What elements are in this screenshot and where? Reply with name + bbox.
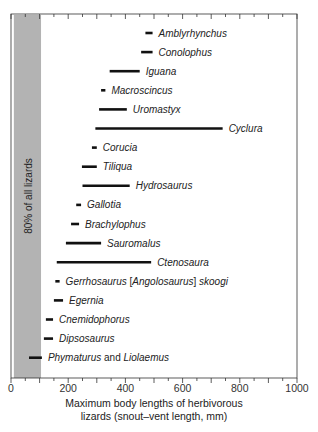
- taxon-label: Cyclura: [229, 123, 263, 134]
- taxon-label: Cnemidophorus: [59, 314, 130, 325]
- x-tick-label: 600: [174, 382, 192, 394]
- shaded-region-label: 80% of all lizards: [23, 158, 34, 234]
- taxon-label: Ctenosaura: [157, 257, 209, 268]
- taxon-label: Phymaturus and Liolaemus: [48, 352, 169, 363]
- taxon-label-part: skoogi: [199, 276, 229, 287]
- taxon-label-part: Cnemidophorus: [59, 314, 130, 325]
- x-tick-label: 0: [8, 382, 14, 394]
- taxon-label-part: and: [101, 352, 123, 363]
- taxon-label-part: Brachylophus: [85, 219, 146, 230]
- taxon-label-part: Cyclura: [229, 123, 263, 134]
- x-tick-label: 800: [231, 382, 249, 394]
- taxon-label-part: Phymaturus: [48, 352, 101, 363]
- taxon-labels: AmblyrhynchusConolophusIguanaMacroscincu…: [48, 28, 263, 364]
- x-tick-labels: 02004006008001000: [8, 382, 309, 394]
- taxon-label: Gallotia: [87, 199, 121, 210]
- taxon-label-part: Iguana: [146, 66, 177, 77]
- taxon-label: Sauromalus: [107, 238, 160, 249]
- taxon-label: Uromastyx: [133, 104, 182, 115]
- taxon-label: Egernia: [69, 295, 104, 306]
- taxon-label-part: Macroscincus: [111, 85, 172, 96]
- taxon-label: Corucia: [103, 142, 138, 153]
- taxon-label-part: Dipsosaurus: [59, 333, 115, 344]
- taxon-label-part: Hydrosaurus: [136, 180, 193, 191]
- range-bar-chart: 80% of all lizards 02004006008001000 Amb…: [0, 0, 318, 432]
- taxon-label: Dipsosaurus: [59, 333, 115, 344]
- taxon-label-part: Uromastyx: [133, 104, 182, 115]
- taxon-label-part: Amblyrhynchus: [158, 28, 227, 39]
- range-bars: [29, 33, 223, 358]
- x-tick-label: 200: [59, 382, 77, 394]
- x-tick-label: 1000: [285, 382, 309, 394]
- x-axis-title-line-2: lizards (snout–vent length, mm): [81, 410, 227, 422]
- taxon-label-part: Corucia: [103, 142, 138, 153]
- top-axis-ticks: [11, 14, 297, 19]
- taxon-label: Macroscincus: [111, 85, 172, 96]
- taxon-label: Brachylophus: [85, 219, 146, 230]
- taxon-label: Iguana: [146, 66, 177, 77]
- taxon-label-part: Angolosaurus: [131, 276, 193, 287]
- taxon-label-part: Ctenosaura: [157, 257, 209, 268]
- taxon-label: Conolophus: [159, 47, 212, 58]
- taxon-label: Gerrhosaurus [Angolosaurus] skoogi: [66, 276, 229, 287]
- taxon-label: Amblyrhynchus: [158, 28, 227, 39]
- taxon-label-part: Gerrhosaurus: [66, 276, 130, 287]
- x-tick-label: 400: [117, 382, 135, 394]
- taxon-label-part: Liolaemus: [123, 352, 169, 363]
- taxon-label-part: Conolophus: [159, 47, 212, 58]
- taxon-label-part: Tiliqua: [103, 161, 133, 172]
- x-axis-title-line-1: Maximum body lengths of herbivorous: [65, 397, 242, 409]
- taxon-label-part: Gallotia: [87, 199, 121, 210]
- taxon-label-part: Egernia: [69, 295, 104, 306]
- taxon-label-part: Sauromalus: [107, 238, 160, 249]
- taxon-label: Hydrosaurus: [136, 180, 193, 191]
- taxon-label: Tiliqua: [103, 161, 133, 172]
- bottom-axis-ticks: [11, 378, 297, 383]
